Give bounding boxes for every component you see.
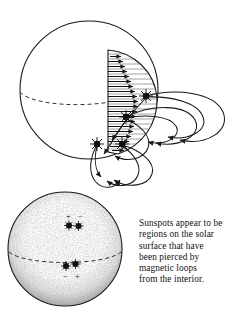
caption-line: magnetic loops: [139, 263, 239, 274]
caption-line: surface that have: [139, 241, 239, 252]
caption-line: Sunspots appear to be: [139, 218, 239, 229]
figure-caption: Sunspots appear to be regions on the sol…: [139, 218, 239, 286]
caption-line: been pierced by: [139, 252, 239, 263]
sunspot-marker: [115, 137, 129, 151]
sunspot-marker: [90, 137, 104, 151]
sunspot-marker: [139, 89, 153, 103]
sunspot-marker: [119, 110, 133, 124]
caption-line: from the interior.: [139, 274, 239, 285]
sunspot-magnetic-loop-figure: + − − +: [0, 0, 242, 319]
caption-line: regions on the solar: [139, 229, 239, 240]
